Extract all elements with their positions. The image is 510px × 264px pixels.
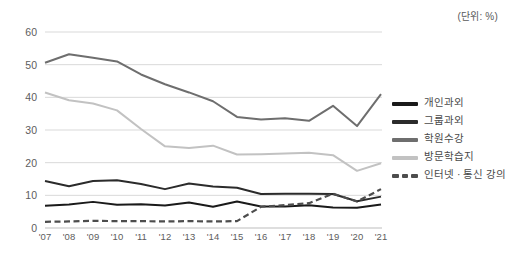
y-tick-label: 60	[25, 26, 37, 38]
series-line-개인과외	[45, 202, 381, 208]
legend-label: 방문학습지	[424, 150, 474, 163]
y-tick-label: 10	[25, 189, 37, 201]
x-tick-label: '20	[351, 231, 363, 242]
x-tick-label: '09	[87, 231, 99, 242]
series-line-그룹과외	[45, 180, 381, 201]
gridlines	[45, 32, 382, 228]
y-tick-label: 30	[25, 124, 37, 136]
legend-item-방문학습지[interactable]: 방문학습지	[392, 150, 508, 163]
legend-swatch-icon	[392, 134, 418, 145]
x-tick-label: '16	[255, 231, 267, 242]
legend-item-그룹과외[interactable]: 그룹과외	[392, 114, 508, 127]
x-tick-label: '14	[207, 231, 219, 242]
plot-svg	[45, 32, 382, 228]
x-tick-label: '18	[303, 231, 315, 242]
unit-label: (단위: %)	[457, 8, 498, 23]
legend-label: 개인과외	[424, 96, 464, 109]
y-axis: 0102030405060	[0, 32, 43, 228]
plot-area	[45, 32, 382, 228]
y-tick-label: 40	[25, 91, 37, 103]
x-tick-label: '12	[159, 231, 171, 242]
y-tick-label: 0	[31, 222, 37, 234]
legend-item-개인과외[interactable]: 개인과외	[392, 96, 508, 109]
y-tick-label: 20	[25, 157, 37, 169]
chart-legend: 개인과외그룹과외학원수강방문학습지인터넷 · 통신 강의	[392, 96, 508, 186]
series-paths	[45, 54, 381, 222]
x-tick-label: '19	[327, 231, 339, 242]
x-tick-label: '13	[183, 231, 195, 242]
line-chart: (단위: %) 0102030405060 '07'08'09'10'11'12…	[0, 0, 510, 264]
legend-swatch-icon	[392, 170, 418, 181]
legend-item-인터넷 · 통신 강의[interactable]: 인터넷 · 통신 강의	[392, 168, 508, 181]
x-tick-label: '11	[135, 231, 147, 242]
series-line-방문학습지	[45, 92, 381, 170]
x-tick-label: '07	[39, 231, 51, 242]
x-tick-label: '10	[111, 231, 123, 242]
y-tick-label: 50	[25, 59, 37, 71]
x-tick-label: '17	[279, 231, 291, 242]
legend-item-학원수강[interactable]: 학원수강	[392, 132, 508, 145]
legend-label: 인터넷 · 통신 강의	[424, 168, 506, 181]
legend-label: 학원수강	[424, 132, 464, 145]
x-axis: '07'08'09'10'11'12'13'14'15'16'17'18'19'…	[45, 231, 382, 251]
legend-swatch-icon	[392, 98, 418, 109]
legend-label: 그룹과외	[424, 114, 464, 127]
legend-swatch-icon	[392, 116, 418, 127]
x-tick-label: '21	[375, 231, 387, 242]
legend-swatch-icon	[392, 152, 418, 163]
x-tick-label: '15	[231, 231, 243, 242]
x-tick-label: '08	[63, 231, 75, 242]
